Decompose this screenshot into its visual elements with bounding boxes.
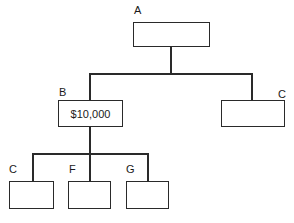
node-c-bottom-box [9,181,54,209]
node-a-label: A [134,4,141,16]
node-c-bottom-label: C [9,163,17,175]
node-b-box: $10,000 [58,100,123,127]
connector-b-to-g [147,153,149,181]
node-c-right-box [221,100,285,127]
connector-b-stem [89,127,91,154]
connector-a-to-b [89,73,91,100]
node-b-label: B [59,86,66,98]
node-g-label: G [126,163,135,175]
connector-a-to-c [251,73,253,100]
node-f-box [68,181,111,209]
node-f-label: F [69,163,76,175]
node-g-box [126,181,169,209]
connector-b-to-f [89,153,91,181]
connector-b-to-c [32,153,34,181]
node-a-box [133,22,210,47]
connector-a-stem [170,47,172,74]
node-c-right-label: C [278,88,286,100]
connector-a-horizontal [89,73,252,75]
